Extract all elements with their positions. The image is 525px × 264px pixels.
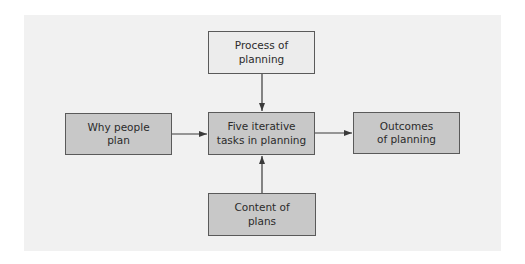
arrows-layer — [0, 0, 525, 264]
